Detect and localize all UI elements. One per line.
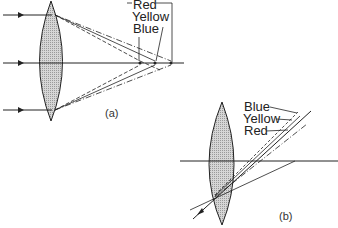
caption-a: (a) xyxy=(105,107,118,119)
lens-a xyxy=(40,1,63,121)
chromatic-aberration-diagram xyxy=(0,0,338,228)
label-red-b: Red xyxy=(244,124,268,137)
caption-b: (b) xyxy=(279,210,292,222)
lens-b xyxy=(209,102,234,225)
label-blue-a: Blue xyxy=(133,22,159,35)
